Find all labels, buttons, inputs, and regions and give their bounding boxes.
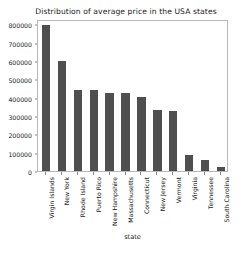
x-tick-mark: [45, 172, 46, 175]
x-tick-label: Rhode Island: [79, 177, 86, 217]
bar: [201, 160, 209, 171]
x-tick-mark: [188, 172, 189, 175]
x-tick-mark: [204, 172, 205, 175]
x-axis-title: state: [37, 233, 228, 241]
y-tick-label: 200000: [8, 132, 32, 139]
y-tick-label: 800000: [8, 22, 32, 29]
bar: [42, 25, 50, 171]
y-tick-label: 700000: [8, 40, 32, 47]
y-tick-label: 100000: [8, 150, 32, 157]
bar: [105, 93, 113, 171]
x-tick-mark: [156, 172, 157, 175]
bar: [137, 97, 145, 171]
y-tick-label: 600000: [8, 59, 32, 66]
x-tick-label: Virginia: [191, 177, 198, 200]
bar: [121, 93, 129, 171]
bar: [153, 110, 161, 171]
x-tick-label: Tennessee: [207, 177, 214, 209]
x-tick-mark: [61, 172, 62, 175]
x-tick-mark: [140, 172, 141, 175]
y-tick-label: 300000: [8, 114, 32, 121]
x-tick-label: Massachusetts: [127, 177, 134, 223]
bar: [169, 111, 177, 171]
plot-area: [37, 20, 228, 172]
bar: [217, 167, 225, 171]
x-tick-mark: [172, 172, 173, 175]
bar: [90, 90, 98, 171]
y-tick-label: 400000: [8, 95, 32, 102]
x-tick-mark: [220, 172, 221, 175]
y-tick-label: 500000: [8, 77, 32, 84]
y-tick-label: 0: [28, 169, 32, 176]
x-tick-label: New Jersey: [159, 177, 166, 211]
bar: [185, 155, 193, 171]
bar: [58, 61, 66, 171]
chart-figure: Distribution of average price in the USA…: [0, 0, 252, 253]
x-tick-label: South Carolina: [223, 177, 230, 222]
bar: [74, 90, 82, 171]
x-tick-label: Vermont: [175, 177, 182, 203]
x-tick-label: Virgin Islands: [48, 177, 55, 218]
x-tick-mark: [125, 172, 126, 175]
x-tick-label: New Hampshire: [111, 177, 118, 226]
x-tick-label: Connecticut: [143, 177, 150, 214]
x-tick-label: Puerto Rico: [95, 177, 102, 212]
chart-title: Distribution of average price in the USA…: [0, 7, 252, 16]
x-tick-label: New York: [63, 177, 70, 205]
x-tick-mark: [77, 172, 78, 175]
bars-layer: [38, 21, 227, 171]
x-tick-mark: [93, 172, 94, 175]
x-tick-mark: [109, 172, 110, 175]
